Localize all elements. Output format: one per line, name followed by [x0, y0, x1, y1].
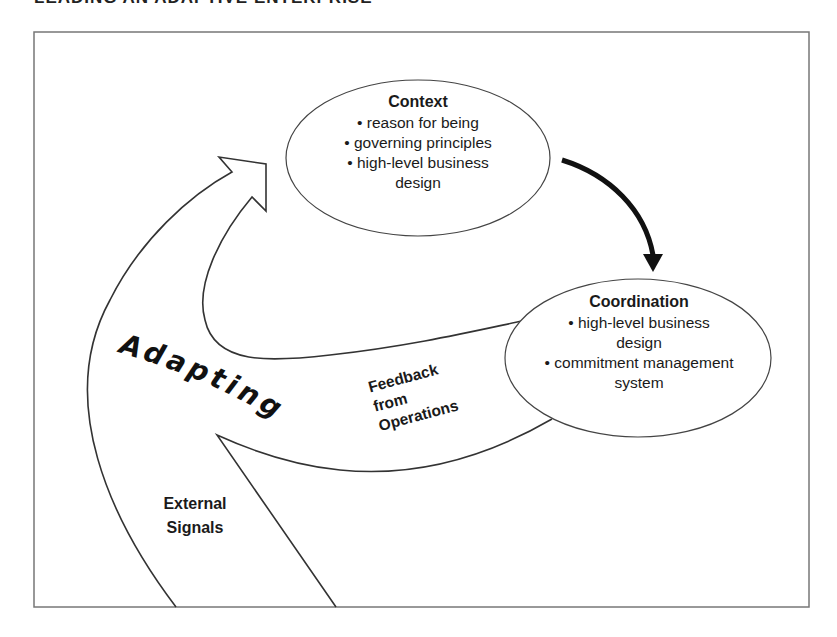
- context-item: • reason for being: [298, 113, 538, 133]
- coordination-title: Coordination: [514, 292, 764, 312]
- coordination-item: • commitment management: [514, 353, 764, 373]
- context-title: Context: [298, 92, 538, 112]
- coordination-item: design: [514, 333, 764, 353]
- external-line: Signals: [140, 516, 250, 540]
- feedback-arrow-outline: [217, 419, 552, 607]
- context-item: • governing principles: [298, 133, 538, 153]
- coordination-item: • high-level business: [514, 313, 764, 333]
- coordination-label: Coordination • high-level business desig…: [514, 292, 764, 393]
- adapting-label: Adapting: [114, 327, 291, 427]
- context-label: Context • reason for being • governing p…: [298, 92, 538, 193]
- coordination-item: system: [514, 373, 764, 393]
- context-item: • high-level business: [298, 153, 538, 173]
- external-line: External: [140, 492, 250, 516]
- external-signals-label: External Signals: [140, 492, 250, 540]
- context-item: design: [298, 173, 538, 193]
- context-to-coordination-arrow: [562, 160, 653, 255]
- arrowhead-icon: [643, 254, 663, 272]
